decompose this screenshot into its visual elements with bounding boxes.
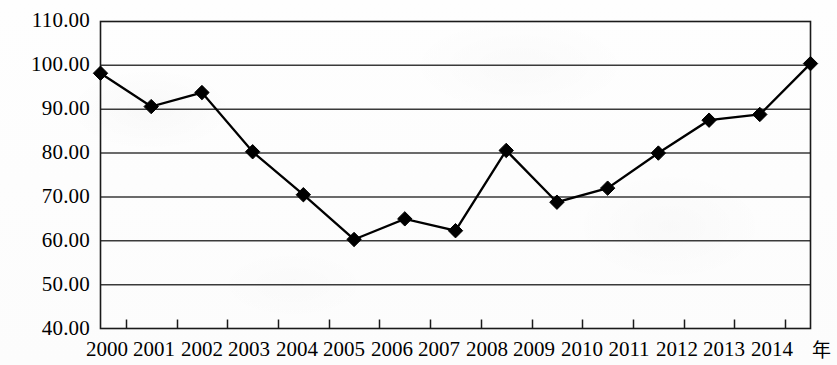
data-markers-group bbox=[93, 56, 817, 246]
data-point-marker bbox=[600, 181, 614, 195]
plot-area bbox=[0, 0, 837, 365]
line-chart: 110.00 100.00 90.00 80.00 70.00 60.00 50… bbox=[0, 0, 837, 365]
data-point-marker bbox=[398, 212, 412, 226]
data-point-marker bbox=[144, 99, 158, 113]
x-tick-marks-group bbox=[127, 320, 786, 329]
data-point-marker bbox=[93, 66, 107, 80]
data-point-marker bbox=[448, 223, 462, 237]
data-point-marker bbox=[651, 146, 665, 160]
plot-border bbox=[101, 22, 811, 329]
data-point-marker bbox=[702, 113, 716, 127]
